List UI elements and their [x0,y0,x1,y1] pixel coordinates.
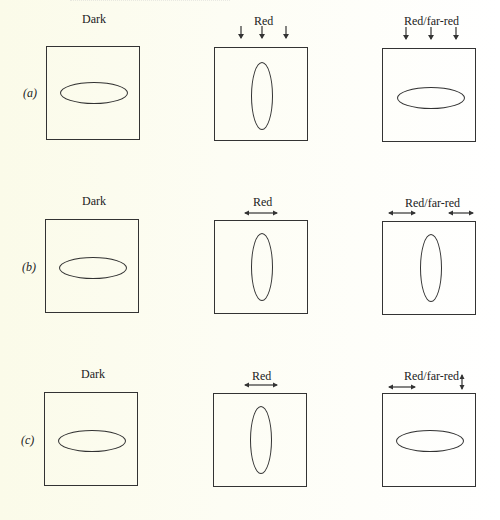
arrow-down-icon [258,26,266,40]
double-arrow-horizontal-icon [448,209,474,217]
panel-c-dark [44,392,138,486]
panel-c-red-far-red [382,393,476,487]
panel-b-red-far-red [382,221,476,315]
arrow-down-icon [282,26,290,40]
double-arrow-horizontal-icon [388,209,416,217]
row-label-b: (b) [22,260,36,275]
panel-title-dark: Dark [81,367,105,382]
panel-b-red [214,220,308,314]
double-arrow-vertical-icon [458,374,466,390]
panel-title-dark: Dark [82,12,106,27]
horizontal-ellipse [58,430,126,452]
row-label-a: (a) [23,86,37,101]
horizontal-ellipse [59,257,127,279]
horizontal-ellipse [60,82,128,104]
panel-a-red-far-red [382,48,476,142]
vertical-ellipse [420,234,442,302]
double-arrow-horizontal-icon [244,381,278,389]
panel-b-dark [45,219,139,313]
panel-title-red: Red [253,195,272,210]
double-arrow-horizontal-icon [388,383,416,391]
panel-title-red-far-red: Red/far-red [404,369,459,384]
panel-a-dark [46,46,140,140]
vertical-ellipse [251,62,273,130]
cropped-caption-remnant [70,0,230,1]
row-label-c: (c) [21,433,34,448]
vertical-ellipse [251,233,273,301]
double-arrow-horizontal-icon [244,209,278,217]
arrow-down-icon [452,27,460,41]
panel-c-red [213,393,307,487]
horizontal-ellipse [397,87,465,109]
arrow-down-icon [427,27,435,41]
arrow-down-icon [237,26,245,40]
horizontal-ellipse [396,430,464,452]
arrow-down-icon [402,27,410,41]
panel-title-dark: Dark [82,194,106,209]
vertical-ellipse [250,406,272,474]
panel-a-red [214,47,308,141]
